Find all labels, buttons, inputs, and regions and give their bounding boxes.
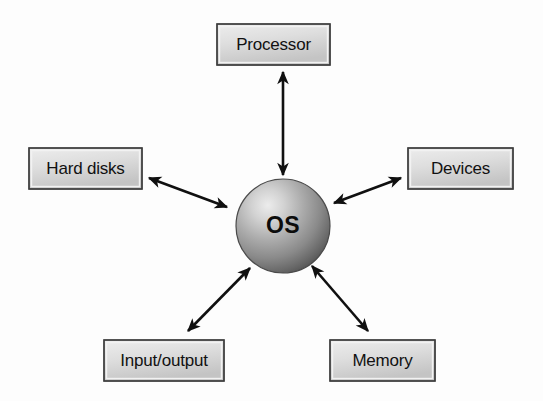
node-memory-label: Memory [352,351,413,370]
diagram-canvas: Processor Hard disks Devices [0,0,543,401]
os-sphere[interactable]: OS [236,179,330,273]
os-sphere-label: OS [266,212,300,238]
node-input-output[interactable]: Input/output [104,340,224,381]
node-devices-label: Devices [431,159,490,178]
node-processor-label: Processor [236,35,311,54]
node-memory[interactable]: Memory [330,340,435,381]
node-devices[interactable]: Devices [408,148,513,189]
arrow-os-hard-disks [149,178,227,207]
node-hard-disks[interactable]: Hard disks [29,148,142,189]
node-hard-disks-label: Hard disks [46,159,124,178]
arrow-os-memory [312,266,368,331]
diagram-svg: Processor Hard disks Devices [0,0,543,401]
arrow-os-devices [334,178,401,203]
arrow-os-input-output [188,268,250,331]
node-processor[interactable]: Processor [217,24,330,65]
node-input-output-label: Input/output [120,351,208,370]
